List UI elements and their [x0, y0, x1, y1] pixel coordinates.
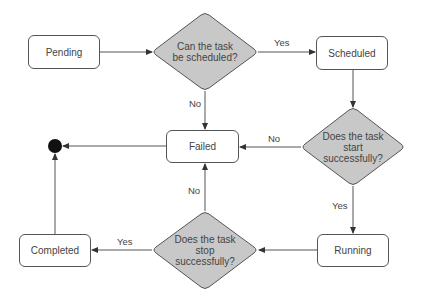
decision-stop-success-line3: successfully? [175, 256, 234, 267]
end-state-icon [48, 139, 62, 153]
decision-start-success-label: Does the task start successfully? [308, 128, 398, 166]
edge-label-schedule-yes: Yes [274, 37, 290, 48]
decision-can-schedule-line1: Can the task [177, 41, 233, 52]
state-pending: Pending [28, 35, 100, 69]
flowchart-canvas: Pending Scheduled Failed Running Complet… [0, 0, 426, 301]
edge-label-start-no: No [268, 133, 280, 144]
edge-label-stop-no: No [188, 185, 200, 196]
state-failed-label: Failed [189, 141, 216, 152]
decision-can-schedule-label: Can the task be scheduled? [160, 34, 250, 70]
decision-start-success-line1: Does the task [322, 131, 383, 142]
state-running: Running [317, 234, 389, 267]
edge-label-start-yes: Yes [332, 200, 348, 211]
state-completed-label: Completed [31, 245, 79, 256]
state-failed: Failed [166, 130, 239, 163]
decision-stop-success-line1: Does the task [174, 234, 235, 245]
decision-start-success-line3: successfully? [323, 153, 382, 164]
decision-can-schedule-line2: be scheduled? [172, 52, 237, 63]
state-pending-label: Pending [46, 47, 83, 58]
decision-stop-success-line2: stop [196, 245, 215, 256]
edge-label-stop-yes: Yes [117, 236, 133, 247]
state-scheduled: Scheduled [316, 36, 388, 70]
edge-label-schedule-no: No [189, 98, 201, 109]
state-completed: Completed [19, 234, 91, 267]
decision-stop-success-label: Does the task stop successfully? [160, 231, 250, 269]
decision-start-success-line2: start [343, 142, 362, 153]
state-scheduled-label: Scheduled [328, 48, 375, 59]
state-running-label: Running [334, 245, 371, 256]
